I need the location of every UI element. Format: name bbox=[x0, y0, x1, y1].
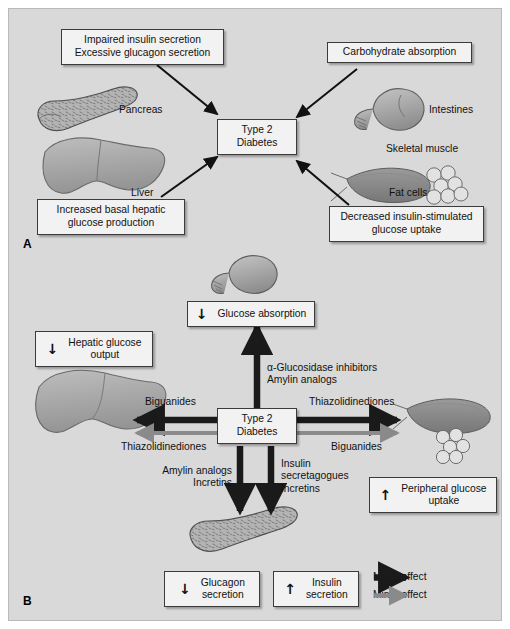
intestines-illustration-a bbox=[355, 89, 424, 131]
pancreas-illustration-b bbox=[190, 507, 297, 551]
type2-diabetes-text-b: Type 2 Diabetes bbox=[234, 413, 281, 438]
figure-panel-container: Impaired insulin secretion Excessive glu… bbox=[8, 8, 502, 621]
up-arrow-icon-peripheral: ↑ bbox=[376, 490, 394, 501]
intestines-illustration-b bbox=[212, 256, 277, 294]
carbohydrate-absorption-text: Carbohydrate absorption bbox=[340, 46, 459, 59]
carbohydrate-absorption-box: Carbohydrate absorption bbox=[327, 42, 472, 63]
pancreas-label: Pancreas bbox=[119, 104, 163, 116]
drug-label-right-major: Thiazolidinediones bbox=[309, 396, 394, 408]
drug-label-right-minor: Biguanides bbox=[331, 441, 382, 453]
down-arrow-icon-glucagon: ↓ bbox=[176, 584, 194, 595]
increased-hepatic-box: Increased basal hepatic glucose producti… bbox=[37, 199, 185, 235]
liver-illustration-a bbox=[43, 138, 165, 193]
glucose-absorption-box: ↓ Glucose absorption bbox=[187, 301, 315, 327]
impaired-insulin-box: Impaired insulin secretion Excessive glu… bbox=[61, 29, 224, 65]
intestines-label: Intestines bbox=[429, 104, 473, 116]
liver-label: Liver bbox=[131, 187, 153, 199]
fat-cells-label: Fat cells bbox=[389, 187, 427, 199]
drug-label-down-left: Amylin analogs Incretins bbox=[127, 465, 232, 490]
skeletal-muscle-illustration-b bbox=[393, 399, 490, 434]
glucagon-secretion-text: Glucagon secretion bbox=[198, 577, 248, 602]
legend-major: Major effect bbox=[373, 571, 427, 582]
panel-letter-b: B bbox=[23, 594, 32, 608]
peripheral-uptake-box: ↑ Peripheral glucose uptake bbox=[369, 477, 497, 513]
drug-label-down-right: Insulin secretagogues Incretins bbox=[281, 458, 349, 495]
drug-label-left-minor: Thiazolidinediones bbox=[121, 441, 206, 453]
decreased-uptake-box: Decreased insulin-stimulated glucose upt… bbox=[329, 206, 484, 242]
legend-minor-arrow-icon bbox=[373, 589, 417, 602]
legend-major-arrow-icon bbox=[373, 571, 417, 584]
increased-hepatic-text: Increased basal hepatic glucose producti… bbox=[54, 204, 169, 229]
skeletal-muscle-label: Skeletal muscle bbox=[386, 143, 458, 155]
down-arrow-icon-hepatic: ↓ bbox=[44, 344, 62, 355]
type2-diabetes-box-b: Type 2 Diabetes bbox=[217, 408, 297, 444]
insulin-secretion-text: Insulin secretion bbox=[303, 577, 351, 602]
insulin-secretion-box: ↑ Insulin secretion bbox=[273, 571, 359, 607]
glucagon-secretion-box: ↓ Glucagon secretion bbox=[164, 571, 260, 607]
impaired-insulin-text: Impaired insulin secretion Excessive glu… bbox=[72, 34, 214, 59]
fat-cells-illustration-b bbox=[436, 428, 469, 463]
panel-letter-a: A bbox=[23, 237, 32, 251]
peripheral-uptake-text: Peripheral glucose uptake bbox=[398, 483, 489, 508]
fat-cells-illustration-a bbox=[427, 166, 468, 204]
hepatic-output-box: ↓ Hepatic glucose output bbox=[35, 331, 153, 367]
glucose-absorption-text: Glucose absorption bbox=[215, 308, 310, 320]
legend-minor: Minor effect bbox=[373, 589, 427, 600]
drug-label-up: α-Glucosidase inhibitors Amylin analogs bbox=[267, 362, 377, 387]
hepatic-output-text: Hepatic glucose output bbox=[65, 337, 144, 362]
decreased-uptake-text: Decreased insulin-stimulated glucose upt… bbox=[337, 211, 475, 236]
type2-diabetes-box-a: Type 2 Diabetes bbox=[217, 119, 297, 155]
type2-diabetes-text-a: Type 2 Diabetes bbox=[234, 124, 281, 149]
down-arrow-icon-absorption: ↓ bbox=[193, 309, 211, 320]
drug-label-left-major: Biguanides bbox=[145, 396, 196, 408]
up-arrow-icon-insulin: ↑ bbox=[281, 584, 299, 595]
